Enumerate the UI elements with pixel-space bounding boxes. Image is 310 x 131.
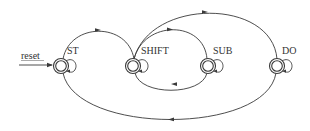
reset-transition: reset bbox=[19, 50, 53, 67]
transition-sub-to-shift bbox=[135, 73, 207, 90]
state-label-shift: SHIFT bbox=[141, 45, 169, 56]
reset-label: reset bbox=[21, 50, 40, 61]
reset-arrowhead-icon bbox=[47, 63, 53, 67]
state-label-st: ST bbox=[67, 45, 79, 56]
state-diagram-canvas: reset bbox=[0, 0, 310, 131]
state-st: ST bbox=[54, 45, 79, 74]
arrowhead-icon bbox=[167, 28, 173, 32]
arrowhead-icon bbox=[168, 118, 174, 122]
state-label-do: DO bbox=[282, 45, 296, 56]
state-do: DO bbox=[270, 45, 297, 74]
state-diagram: reset bbox=[0, 0, 310, 131]
state-shift: SHIFT bbox=[126, 45, 169, 74]
transition-do-to-st bbox=[63, 73, 276, 121]
arrowhead-icon bbox=[171, 82, 177, 86]
state-label-sub: SUB bbox=[213, 45, 233, 56]
